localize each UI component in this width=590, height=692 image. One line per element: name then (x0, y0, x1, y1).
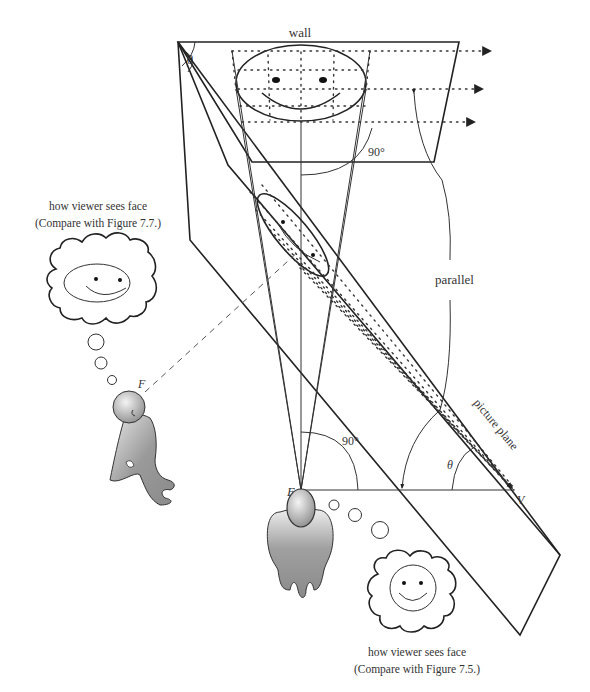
viewer-f-sightline (145, 250, 300, 392)
parallel-label: parallel (435, 272, 474, 287)
picture-plane (178, 42, 560, 635)
viewer-figure-bottom (267, 489, 333, 598)
theta-bottom-label: θ (447, 458, 453, 472)
projection-lines (250, 185, 514, 490)
parallel-indicator: parallel (402, 93, 474, 488)
wall-label: wall (289, 25, 312, 40)
right-thought-bubble (329, 500, 456, 632)
angle-bottom-label: 90° (342, 434, 359, 448)
bottom-theta-angle: θ (447, 448, 473, 490)
right-angle-arcs: 90° 90° (301, 128, 385, 490)
right-caption-line1: how viewer sees face (368, 646, 466, 658)
angle-top-label: 90° (368, 145, 385, 159)
left-caption-line2: (Compare with Figure 7.7.) (35, 217, 161, 230)
left-thought-bubble (47, 233, 156, 385)
wall-face (236, 45, 366, 121)
right-caption-line2: (Compare with Figure 7.5.) (354, 663, 480, 676)
point-f-label: F (137, 377, 146, 391)
perspective-diagram: θ wall 90° 9 (0, 0, 590, 692)
left-caption-line1: how viewer sees face (49, 200, 147, 212)
viewer-figure-left (110, 391, 174, 505)
point-v-label: V (517, 493, 526, 507)
